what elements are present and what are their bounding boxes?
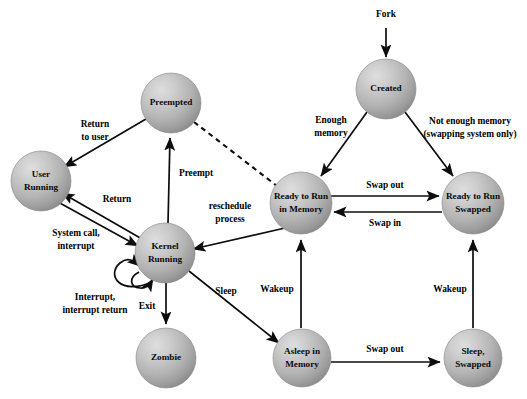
node-kernel-running-label-1: Kernel: [151, 241, 178, 251]
node-ready-to-run-swapped-label-2: Swapped: [455, 204, 491, 214]
node-ready-to-run-in-memory[interactable]: Ready to Run in Memory: [270, 172, 332, 234]
edge-enough-memory-label-2: memory: [314, 128, 348, 138]
edge-reschedule-label-1: reschedule: [209, 201, 252, 211]
node-created[interactable]: Created: [356, 59, 416, 119]
edge-swap-in: Swap in: [334, 212, 442, 228]
edge-return-label: Return: [103, 194, 132, 204]
edge-preempt-line: [168, 138, 170, 223]
node-sleep-swapped-label-1: Sleep,: [461, 346, 484, 356]
edge-not-enough-memory-label-2: (swapping system only): [423, 129, 516, 140]
node-ready-to-run-swapped[interactable]: Ready to Run Swapped: [442, 172, 504, 234]
node-ready-to-run-in-memory-label-2: in Memory: [279, 204, 323, 214]
edge-preempt-label: Preempt: [179, 168, 214, 178]
edge-sleep: Sleep: [189, 271, 279, 343]
edge-interrupt-loop-label-1: Interrupt,: [75, 292, 115, 302]
edge-sleep-label: Sleep: [215, 286, 236, 296]
node-user-running-circle[interactable]: [11, 151, 71, 211]
edge-exit: Exit: [139, 283, 166, 324]
node-kernel-running[interactable]: Kernel Running: [135, 223, 195, 283]
node-ready-to-run-in-memory-label-1: Ready to Run: [274, 191, 328, 201]
edge-swap-in-label: Swap in: [369, 218, 402, 228]
edge-fork-label: Fork: [376, 9, 397, 19]
edge-system-call-label-1: System call,: [52, 228, 99, 238]
node-kernel-running-circle[interactable]: [135, 223, 195, 283]
node-ready-to-run-swapped-circle[interactable]: [442, 172, 504, 234]
node-ready-to-run-swapped-label-1: Ready to Run: [446, 191, 500, 201]
edge-return-to-user: Return to user: [64, 119, 146, 167]
edge-swap-out-sleep: Swap out: [331, 344, 440, 362]
node-user-running[interactable]: User Running: [11, 151, 71, 211]
edge-enough-memory: Enough memory: [314, 112, 367, 176]
node-sleep-swapped-label-2: Swapped: [455, 359, 491, 369]
edge-not-enough-memory: Not enough memory (swapping system only): [405, 112, 517, 176]
edge-not-enough-memory-label-1: Not enough memory: [429, 116, 511, 126]
edge-enough-memory-label-1: Enough: [315, 115, 347, 125]
edge-preempt: Preempt: [168, 138, 214, 223]
edge-system-call-line: [58, 202, 138, 246]
edge-swap-out-ready: Swap out: [331, 180, 439, 196]
node-asleep-in-memory-circle[interactable]: [273, 329, 331, 387]
node-preempted[interactable]: Preempted: [141, 73, 201, 133]
edge-fork: Fork: [376, 9, 397, 57]
node-sleep-swapped[interactable]: Sleep, Swapped: [444, 329, 502, 387]
edge-interrupt-loop-label-2: interrupt return: [62, 305, 128, 315]
edge-sleep-line: [189, 271, 279, 343]
node-ready-to-run-in-memory-circle[interactable]: [270, 172, 332, 234]
edge-wakeup-memory-label: Wakeup: [260, 284, 293, 294]
edge-wakeup-swapped-label: Wakeup: [433, 284, 466, 294]
edge-system-call: System call, interrupt: [52, 202, 138, 251]
diagram-canvas: Fork Enough memory Not enough memory (sw…: [0, 0, 527, 399]
node-asleep-in-memory-label-2: Memory: [285, 359, 319, 369]
node-kernel-running-label-2: Running: [148, 254, 183, 264]
edge-exit-label: Exit: [139, 301, 157, 311]
edge-system-call-label-2: interrupt: [58, 241, 96, 251]
edge-reschedule-line: [193, 228, 285, 249]
node-zombie-label: Zombie: [151, 352, 181, 362]
node-sleep-swapped-circle[interactable]: [444, 329, 502, 387]
node-created-label: Created: [370, 83, 401, 93]
node-asleep-in-memory-label-1: Asleep in: [284, 346, 320, 356]
edge-wakeup-swapped: Wakeup: [433, 240, 473, 328]
node-user-running-label-1: User: [32, 169, 50, 179]
process-state-diagram: Fork Enough memory Not enough memory (sw…: [0, 0, 527, 399]
edge-return-to-user-label-2: to user: [81, 132, 108, 142]
node-asleep-in-memory[interactable]: Asleep in Memory: [273, 329, 331, 387]
edge-swap-out-sleep-label: Swap out: [366, 344, 404, 354]
node-zombie[interactable]: Zombie: [136, 328, 196, 388]
node-user-running-label-2: Running: [24, 182, 59, 192]
edge-reschedule-label-2: process: [215, 214, 245, 224]
edge-return-to-user-label-1: Return: [81, 119, 110, 129]
edge-swap-out-ready-label: Swap out: [366, 180, 404, 190]
node-preempted-label: Preempted: [150, 97, 193, 107]
edge-wakeup-memory: Wakeup: [260, 240, 301, 328]
